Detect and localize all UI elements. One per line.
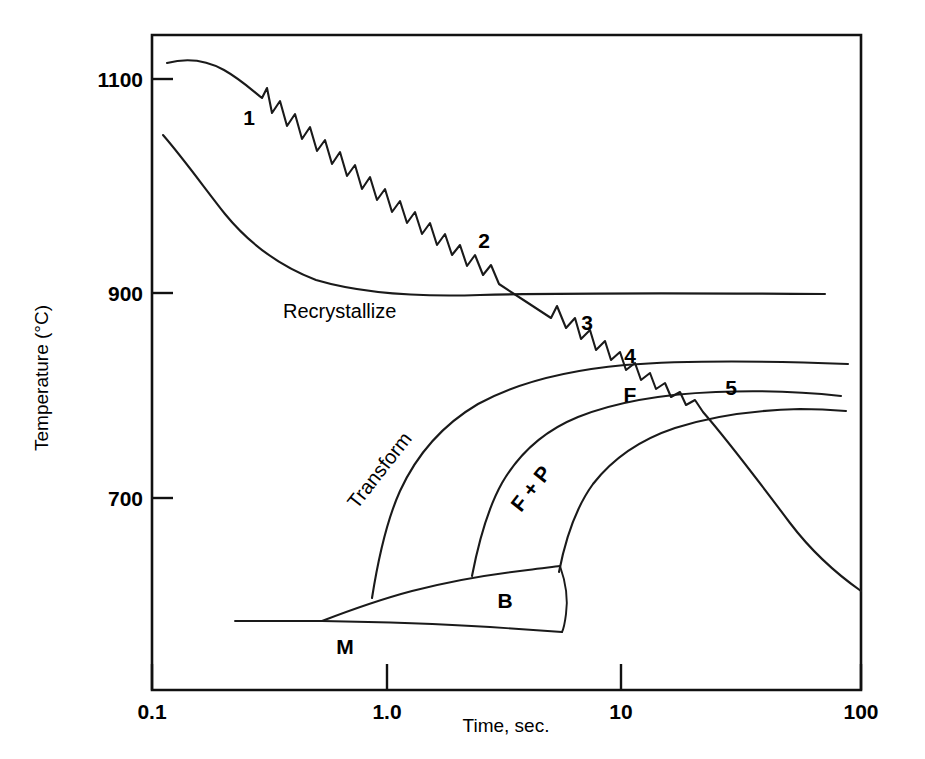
region-label-ferrite-plus-pearlite: F + P [506,461,555,515]
y-tick-label-700: 700 [108,487,143,510]
axis-tick-labels: 1100 900 700 0.1 1.0 10 100 [97,68,878,723]
pass-label-1: 1 [243,106,255,129]
ttt-diagram-figure: 1100 900 700 0.1 1.0 10 100 Time, sec. T… [0,0,925,759]
y-axis-title: Temperature (°C) [31,305,52,451]
martensite-start-line [235,621,562,632]
x-axis-title: Time, sec. [463,715,550,736]
cooling-path-curve [167,60,861,591]
bainite-nose-closure [560,566,567,632]
region-label-martensite: M [336,635,354,658]
x-tick-label-0-1: 0.1 [137,700,167,723]
x-tick-label-100: 100 [843,700,878,723]
region-label-transform: Transform [343,428,416,513]
ferrite-start-curve [372,362,848,599]
y-tick-label-900: 900 [108,282,143,305]
pass-label-4: 4 [624,344,636,367]
pass-label-5: 5 [725,376,737,399]
y-tick-label-1100: 1100 [97,68,143,91]
pass-label-2: 2 [478,229,490,252]
x-tick-label-1-0: 1.0 [372,700,401,723]
bainite-upper-boundary [322,566,560,621]
region-label-ferrite: F [624,383,637,406]
x-axis-ticks [152,664,861,690]
pass-label-3: 3 [581,311,593,334]
region-label-bainite: B [497,589,512,612]
pearlite-finish-curve [559,409,846,572]
x-tick-label-10: 10 [609,700,632,723]
region-label-recrystallize: Recrystallize [283,300,396,322]
chart-svg: 1100 900 700 0.1 1.0 10 100 Time, sec. T… [0,0,925,759]
